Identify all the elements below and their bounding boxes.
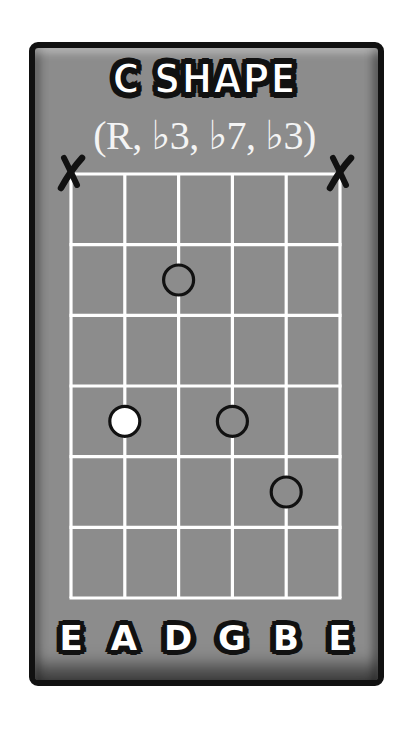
interval-dot-icon bbox=[271, 477, 301, 507]
interval-dot-icon bbox=[164, 265, 194, 295]
string-label-d: D bbox=[156, 612, 200, 664]
string-label-b: B bbox=[264, 612, 308, 664]
string-label-a: A bbox=[102, 612, 146, 664]
grid-lines bbox=[70, 174, 342, 598]
string-labels: E A D G B E bbox=[0, 612, 409, 668]
interval-dot-icon bbox=[217, 406, 247, 436]
string-label-low-e: E bbox=[49, 612, 93, 664]
root-dot-icon bbox=[110, 406, 140, 436]
string-label-high-e: E bbox=[318, 612, 362, 664]
string-label-g: G bbox=[210, 612, 254, 664]
